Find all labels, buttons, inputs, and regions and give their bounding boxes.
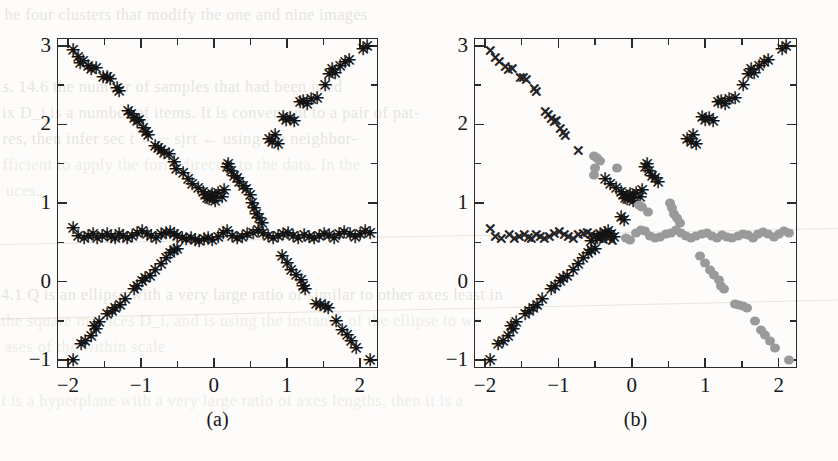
data-point-circle xyxy=(671,225,681,234)
data-point-asterisk: ✳ xyxy=(761,52,775,69)
data-point-asterisk: ✳ xyxy=(736,77,750,94)
data-point-circle xyxy=(645,232,655,241)
data-point-circle xyxy=(590,164,600,173)
data-point-x: ✕ xyxy=(506,60,519,75)
data-point-x: ✕ xyxy=(538,231,551,246)
data-point-asterisk: ✳ xyxy=(506,320,520,337)
data-point-circle xyxy=(621,234,631,243)
data-point-asterisk: ✳ xyxy=(686,127,700,144)
data-point-x: ✕ xyxy=(499,58,512,73)
data-point-asterisk: ✳ xyxy=(714,92,728,109)
data-point-circle xyxy=(669,210,679,219)
data-point-x: ✕ xyxy=(602,230,615,245)
data-point-circle xyxy=(758,228,768,237)
data-point-x: ✕ xyxy=(518,227,531,242)
data-point-x: ✕ xyxy=(484,42,497,57)
data-point-asterisk: ✳ xyxy=(680,130,694,147)
data-point-x: ✕ xyxy=(572,142,585,157)
data-point-circle xyxy=(681,232,691,241)
data-point-x: ✕ xyxy=(558,226,571,241)
data-point-circle xyxy=(734,301,744,310)
data-point-x: ✕ xyxy=(503,227,516,242)
data-point-asterisk: ✳ xyxy=(640,155,654,172)
data-point-circle xyxy=(738,301,748,310)
data-point-circle xyxy=(676,228,686,237)
data-point-asterisk: ✳ xyxy=(598,171,612,188)
data-point-asterisk: ✳ xyxy=(629,184,643,201)
data-point-circle xyxy=(631,228,641,237)
data-point-asterisk: ✳ xyxy=(590,229,604,246)
data-point-circle xyxy=(748,233,758,242)
data-point-asterisk: ✳ xyxy=(526,300,540,317)
y-tick-label: 3 xyxy=(434,35,468,56)
data-point-circle xyxy=(727,234,737,243)
data-point-asterisk: ✳ xyxy=(588,240,602,257)
data-point-asterisk: ✳ xyxy=(504,317,518,334)
data-point-asterisk: ✳ xyxy=(718,96,732,113)
scanned-figure-page: he four clusters that modify the one and… xyxy=(0,0,838,461)
data-point-x: ✕ xyxy=(548,114,561,129)
data-point-circle xyxy=(589,170,599,179)
data-point-circle xyxy=(666,228,676,237)
data-point-asterisk: ✳ xyxy=(496,332,510,349)
data-point-layer: ✕✕✕✕✕✕✕✕✕✕✕✕✕✕✕✕✕✕✕✕✕✕✕✕✕✕✕✕✕✕✕✕✕✕✕✕✕✕✕✕… xyxy=(465,29,806,377)
data-point-asterisk: ✳ xyxy=(642,162,656,179)
data-point-circle xyxy=(774,229,784,238)
data-point-circle xyxy=(634,200,644,209)
data-point-x: ✕ xyxy=(554,121,567,136)
data-point-x: ✕ xyxy=(517,70,530,85)
data-point-asterisk: ✳ xyxy=(620,191,634,208)
data-point-asterisk: ✳ xyxy=(625,190,639,207)
data-point-asterisk: ✳ xyxy=(576,250,590,267)
data-point-x: ✕ xyxy=(553,224,566,239)
data-point-circle xyxy=(738,229,748,238)
data-point-asterisk: ✳ xyxy=(626,193,640,210)
data-point-asterisk: ✳ xyxy=(609,180,623,197)
data-point-asterisk: ✳ xyxy=(752,58,766,75)
data-point-asterisk: ✳ xyxy=(598,224,612,241)
data-point-asterisk: ✳ xyxy=(706,112,720,129)
data-point-asterisk: ✳ xyxy=(614,184,628,201)
data-point-x: ✕ xyxy=(545,111,558,126)
data-point-x: ✕ xyxy=(520,71,533,86)
x-tick-label: −2 xyxy=(465,375,505,396)
data-point-circle xyxy=(661,230,671,239)
data-point-x: ✕ xyxy=(557,125,570,140)
data-point-circle xyxy=(784,228,794,237)
data-point-x: ✕ xyxy=(567,230,580,245)
y-tick-label: 1 xyxy=(434,192,468,213)
data-point-circle xyxy=(765,337,775,346)
data-point-circle xyxy=(712,233,722,242)
data-point-asterisk: ✳ xyxy=(509,314,523,331)
data-point-circle xyxy=(637,202,647,211)
data-point-asterisk: ✳ xyxy=(553,272,567,289)
data-point-x: ✕ xyxy=(585,227,598,242)
data-point-asterisk: ✳ xyxy=(744,61,758,78)
data-point-x: ✕ xyxy=(522,229,535,244)
data-point-asterisk: ✳ xyxy=(595,228,609,245)
data-point-x: ✕ xyxy=(543,229,556,244)
data-point-asterisk: ✳ xyxy=(633,188,647,205)
data-point-circle xyxy=(716,281,726,290)
data-point-asterisk: ✳ xyxy=(607,228,621,245)
data-point-x: ✕ xyxy=(539,104,552,119)
data-point-circle xyxy=(686,234,696,243)
data-point-x: ✕ xyxy=(559,128,572,143)
data-point-circle xyxy=(722,232,732,241)
data-point-circle xyxy=(636,225,646,234)
data-point-asterisk: ✳ xyxy=(603,176,617,193)
data-point-asterisk: ✳ xyxy=(684,133,698,150)
data-point-x: ✕ xyxy=(508,230,521,245)
data-point-asterisk: ✳ xyxy=(689,136,703,153)
data-point-asterisk: ✳ xyxy=(614,209,628,226)
data-point-x: ✕ xyxy=(534,229,547,244)
data-point-circle xyxy=(705,265,715,274)
data-point-x: ✕ xyxy=(514,70,527,85)
y-tick-label: 0 xyxy=(434,271,468,292)
data-point-circle xyxy=(695,252,705,261)
data-point-circle xyxy=(650,234,660,243)
x-tick-label: 0 xyxy=(612,375,652,396)
data-point-x: ✕ xyxy=(597,232,610,247)
plot-panel-b: −10123−2−1012(b)✕✕✕✕✕✕✕✕✕✕✕✕✕✕✕✕✕✕✕✕✕✕✕✕… xyxy=(0,0,838,461)
data-point-circle xyxy=(779,227,789,236)
